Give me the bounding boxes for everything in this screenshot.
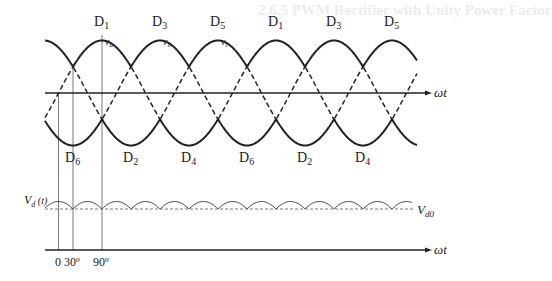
lower-diode-label-D2: D2 [297,150,312,167]
angle-label-90: 90º [93,255,109,269]
phase-label-vb: vb [163,36,171,49]
phase-b-conducting-segment [45,118,103,145]
bottom-axis-arrow-icon [425,248,432,253]
output-voltage-ripple [45,202,412,210]
phase-label-vc: vc [221,36,229,49]
lower-diode-label-D4: D4 [181,150,196,167]
upper-diode-label-D3: D3 [152,14,167,31]
lower-diode-label-D6: D6 [65,150,80,167]
phase-a-conducting-segment [247,41,306,68]
phase-a-non-conducting-segment [393,74,418,119]
phase-label-va: va [105,36,113,49]
upper-diode-label-D5: D5 [384,14,399,31]
top-axis-arrow-icon [425,91,432,96]
phase-a-non-conducting-segment [45,67,73,118]
upper-diode-label-D1: D1 [94,14,109,31]
phase-c-conducting-segment [102,118,161,145]
phase-c-conducting-segment [189,41,248,68]
vd-t-label: Vd (t) [24,193,48,209]
top-axis-label: ωt [434,85,447,100]
phase-a-conducting-segment [160,118,219,145]
phase-a-conducting-segment [334,118,393,145]
upper-diode-labels: D1D3D5D1D3D5 [94,14,399,31]
vd-ripple-waveform [45,202,412,210]
lower-diode-label-D6: D6 [239,150,254,167]
phase-b-conducting-segment [218,118,277,145]
phase-b-conducting-segment [392,119,417,145]
bottom-axis-label: ωt [434,242,447,257]
phase-c-conducting-segment [276,118,335,145]
phase-c-conducting-segment [45,41,74,68]
phase-c-conducting-segment [363,41,417,67]
angle-label-30: 30º [64,255,80,269]
upper-diode-label-D3: D3 [326,14,341,31]
angle-label-0: 0 [55,255,61,269]
lower-diode-label-D4: D4 [355,150,370,167]
lower-diode-labels: D6D2D4D6D2D4 [65,150,370,167]
vd0-label: Vd0 [417,202,434,219]
lower-diode-label-D2: D2 [123,150,138,167]
upper-diode-label-D1: D1 [268,14,283,31]
upper-diode-label-D5: D5 [210,14,225,31]
phase-b-conducting-segment [305,41,364,68]
phase-b-conducting-segment [131,41,190,68]
